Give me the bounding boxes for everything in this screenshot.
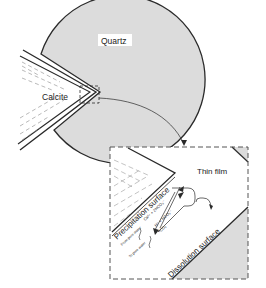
- quartz-label: Quartz: [101, 36, 127, 46]
- zoom-arrow-head-icon: [181, 140, 187, 146]
- diagram-canvas: Calcite Quartz Thin film Prec: [0, 0, 266, 288]
- calcite-label: Calcite: [42, 92, 68, 102]
- inset-panel: [110, 147, 248, 279]
- thin-film-label: Thin film: [197, 167, 228, 176]
